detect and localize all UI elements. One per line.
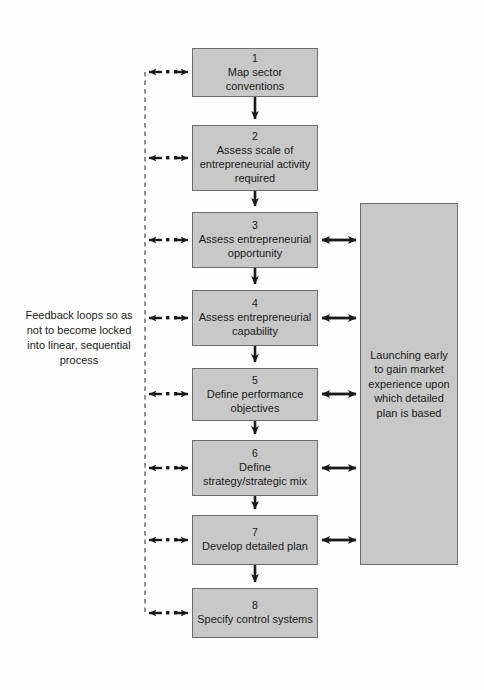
side-panel-label: Launching early to gain market experienc…: [361, 348, 457, 421]
process-box-label: Define strategy/strategic mix: [193, 461, 317, 489]
process-box-label: Map sector conventions: [193, 66, 317, 94]
process-box-7[interactable]: 7 Develop detailed plan: [192, 515, 318, 565]
process-box-4[interactable]: 4 Assess entrepreneurial capability: [192, 290, 318, 346]
process-box-number: 4: [252, 297, 258, 310]
process-box-label: Assess scale of entrepreneurial activity…: [193, 144, 317, 185]
process-box-5[interactable]: 5 Define performance objectives: [192, 368, 318, 421]
process-box-label: Develop detailed plan: [198, 540, 312, 554]
process-box-number: 1: [252, 52, 258, 65]
flowchart-canvas: 1 Map sector conventions 2 Assess scale …: [0, 0, 484, 690]
process-box-8[interactable]: 8 Specify control systems: [192, 588, 318, 638]
process-box-number: 8: [252, 599, 258, 612]
exchange-arrows: [322, 240, 356, 540]
feedback-connector: [149, 611, 188, 614]
process-box-number: 7: [252, 526, 258, 539]
process-box-2[interactable]: 2 Assess scale of entrepreneurial activi…: [192, 125, 318, 191]
feedback-connector: [149, 238, 188, 241]
process-box-label: Define performance objectives: [193, 388, 317, 416]
process-box-number: 5: [252, 374, 258, 387]
process-box-number: 2: [252, 130, 258, 143]
feedback-connectors: [149, 70, 188, 614]
process-box-6[interactable]: 6 Define strategy/strategic mix: [192, 440, 318, 496]
feedback-connector: [149, 392, 188, 395]
process-box-label: Specify control systems: [193, 613, 317, 627]
process-box-3[interactable]: 3 Assess entrepreneurial opportunity: [192, 212, 318, 268]
process-box-number: 3: [252, 219, 258, 232]
feedback-connector: [149, 70, 188, 73]
feedback-connector: [149, 316, 188, 319]
feedback-connector: [149, 538, 188, 541]
process-box-label: Assess entrepreneurial opportunity: [193, 233, 317, 261]
feedback-caption: Feedback loops so as not to become locke…: [18, 308, 140, 367]
feedback-connector: [149, 156, 188, 159]
process-box-number: 6: [252, 447, 258, 460]
process-box-label: Assess entrepreneurial capability: [193, 311, 317, 339]
feedback-connector: [149, 466, 188, 469]
process-box-1[interactable]: 1 Map sector conventions: [192, 48, 318, 97]
side-panel[interactable]: Launching early to gain market experienc…: [360, 203, 458, 565]
